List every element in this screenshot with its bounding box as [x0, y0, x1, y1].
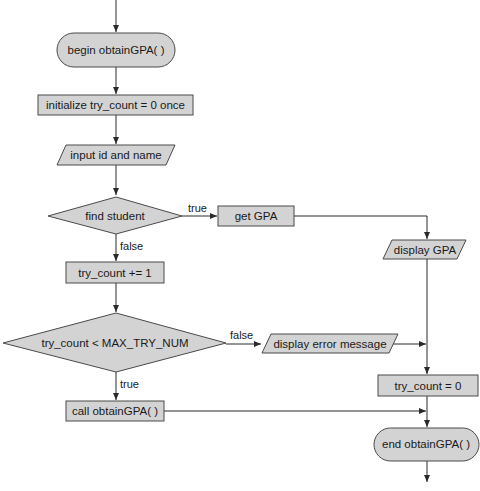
- node-init: initialize try_count = 0 once: [38, 95, 193, 115]
- node-display-label: display GPA: [394, 244, 457, 256]
- node-input-label: input id and name: [70, 149, 161, 161]
- node-get: get GPA: [218, 206, 294, 226]
- node-display: display GPA: [383, 240, 466, 259]
- node-end-label: end obtainGPA( ): [382, 438, 470, 450]
- edge-label-check-true: true: [120, 378, 139, 390]
- node-call: call obtainGPA( ): [66, 401, 164, 421]
- node-inc: try_count += 1: [66, 262, 164, 283]
- node-end: end obtainGPA( ): [374, 428, 479, 461]
- edge-get-display: [294, 216, 427, 239]
- edge-label-find-true: true: [188, 202, 207, 214]
- node-find: find student: [48, 197, 182, 234]
- node-error: display error message: [262, 334, 398, 353]
- node-init-label: initialize try_count = 0 once: [46, 99, 185, 111]
- node-reset-label: try_count = 0: [395, 380, 462, 392]
- node-inc-label: try_count += 1: [78, 267, 152, 279]
- node-error-label: display error message: [273, 338, 386, 350]
- node-call-label: call obtainGPA( ): [72, 405, 158, 417]
- node-get-label: get GPA: [235, 210, 278, 222]
- node-check: try_count < MAX_TRY_NUM: [3, 313, 226, 372]
- edge-label-find-false: false: [120, 240, 143, 252]
- flowchart-canvas: begin obtainGPA( ) initialize try_count …: [0, 0, 480, 491]
- node-find-label: find student: [85, 210, 145, 222]
- node-reset: try_count = 0: [378, 375, 478, 396]
- edge-label-check-false: false: [230, 329, 253, 341]
- node-begin: begin obtainGPA( ): [57, 33, 175, 67]
- node-input: input id and name: [57, 145, 175, 165]
- node-begin-label: begin obtainGPA( ): [68, 44, 165, 56]
- node-check-label: try_count < MAX_TRY_NUM: [41, 337, 188, 349]
